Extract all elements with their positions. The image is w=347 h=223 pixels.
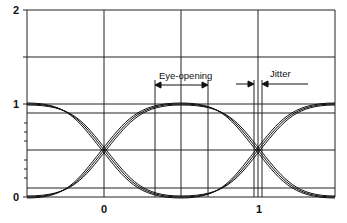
y-tick-label-2: 2 xyxy=(13,5,19,16)
eye-diagram xyxy=(0,0,347,223)
y-tick-label-1: 1 xyxy=(13,99,19,110)
x-tick-label-1: 1 xyxy=(256,204,262,215)
y-tick-label-0: 0 xyxy=(13,192,19,203)
jitter-label: Jitter xyxy=(270,69,291,79)
y-axis-ticks xyxy=(23,10,27,197)
eye-opening-label: Eye-opening xyxy=(159,71,212,81)
jitter-arrows xyxy=(236,81,308,87)
x-tick-label-0: 0 xyxy=(101,204,107,215)
